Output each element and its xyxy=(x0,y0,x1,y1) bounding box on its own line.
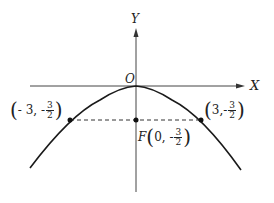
origin-label: O xyxy=(125,72,135,86)
right-point-label: ( 3, - 3 2 ) xyxy=(204,98,245,122)
fraction: 3 2 xyxy=(174,128,182,147)
x-axis-arrow-icon xyxy=(236,84,245,89)
y-axis-label: Y xyxy=(131,12,139,26)
x-axis-label: X xyxy=(250,78,259,93)
right-point-dot xyxy=(199,118,204,123)
y-axis-arrow-icon xyxy=(134,28,139,37)
fraction: 3 2 xyxy=(228,101,236,120)
focus-dot xyxy=(134,118,139,123)
left-point-label: ( - 3, - 3 2 ) xyxy=(10,98,63,122)
focus-label: F ( 0, - 3 2 ) xyxy=(138,125,191,149)
left-point-dot xyxy=(68,118,73,123)
fraction: 3 2 xyxy=(46,101,54,120)
